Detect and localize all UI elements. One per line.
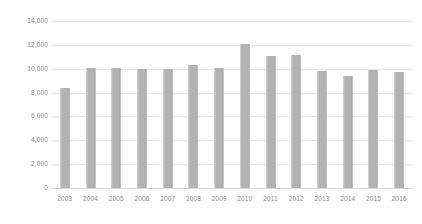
bar[interactable] — [240, 44, 249, 188]
bar[interactable] — [317, 71, 326, 188]
x-tick-label: 2009 — [212, 196, 227, 203]
bar[interactable] — [60, 88, 69, 188]
plot-area — [52, 21, 412, 188]
y-tick-label: 6,000 — [4, 113, 48, 120]
bar-slot — [78, 21, 104, 188]
x-axis: 2003200420052006200720082009201020112012… — [52, 191, 412, 211]
x-tick-label: 2012 — [289, 196, 304, 203]
bar-slot — [361, 21, 387, 188]
bar[interactable] — [266, 56, 275, 188]
bar-slot — [335, 21, 361, 188]
bar-chart: 02,0004,0006,0008,00010,00012,00014,000 … — [0, 0, 422, 224]
x-tick-label: 2003 — [57, 196, 72, 203]
bar[interactable] — [163, 69, 172, 188]
bar-slot — [232, 21, 258, 188]
x-tick-label: 2013 — [314, 196, 329, 203]
bar-slot — [129, 21, 155, 188]
x-tick-label: 2005 — [109, 196, 124, 203]
x-tick-label: 2016 — [392, 196, 407, 203]
bar[interactable] — [112, 68, 121, 188]
x-tick-label: 2014 — [340, 196, 355, 203]
bar[interactable] — [215, 68, 224, 188]
y-tick-label: 0 — [4, 185, 48, 192]
bar-slot — [309, 21, 335, 188]
bar[interactable] — [292, 55, 301, 188]
bar[interactable] — [189, 65, 198, 188]
bar-slot — [206, 21, 232, 188]
x-tick-label: 2010 — [237, 196, 252, 203]
y-tick-label: 10,000 — [4, 65, 48, 72]
y-tick-label: 14,000 — [4, 18, 48, 25]
bar-slot — [155, 21, 181, 188]
y-tick-label: 4,000 — [4, 137, 48, 144]
x-tick-label: 2015 — [366, 196, 381, 203]
y-tick-label: 8,000 — [4, 89, 48, 96]
bar-slot — [181, 21, 207, 188]
x-tick-label: 2006 — [134, 196, 149, 203]
bar-slot — [103, 21, 129, 188]
bar-slot — [258, 21, 284, 188]
y-tick-label: 2,000 — [4, 161, 48, 168]
x-tick-label: 2008 — [186, 196, 201, 203]
bar[interactable] — [369, 70, 378, 188]
x-tick-label: 2004 — [83, 196, 98, 203]
x-tick-label: 2007 — [160, 196, 175, 203]
bar[interactable] — [395, 72, 404, 188]
gridline — [52, 188, 412, 189]
bar[interactable] — [86, 68, 95, 188]
bar[interactable] — [343, 76, 352, 188]
x-tick-label: 2011 — [263, 196, 278, 203]
y-axis: 02,0004,0006,0008,00010,00012,00014,000 — [0, 21, 48, 188]
bar[interactable] — [137, 69, 146, 188]
bar-slot — [52, 21, 78, 188]
y-tick-label: 12,000 — [4, 42, 48, 49]
bar-slot — [386, 21, 412, 188]
bar-slot — [283, 21, 309, 188]
